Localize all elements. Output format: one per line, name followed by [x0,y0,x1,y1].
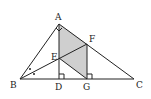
label-b: B [10,80,17,90]
geometry-diagram: A B C D E F G [0,0,151,99]
label-a: A [54,12,62,22]
label-d: D [55,82,62,92]
right-angle-mark-d [59,74,64,79]
label-e: E [51,52,58,62]
label-g: G [83,82,90,92]
right-angle-mark-g [87,74,92,79]
angle-mark-dot-1 [29,68,31,70]
label-c: C [136,80,143,90]
angle-mark-dot-2 [33,73,35,75]
label-f: F [89,34,95,44]
